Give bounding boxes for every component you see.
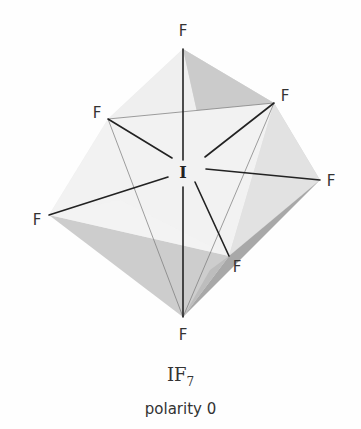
fluorine-label-lower-right: F [233, 258, 242, 276]
fluorine-label-upper-right: F [281, 87, 290, 105]
polarity-label: polarity 0 [0, 400, 361, 418]
fluorine-label-upper-left: F [93, 104, 102, 122]
fluorine-label-bottom: F [179, 326, 188, 344]
fluorine-label-right: F [327, 172, 336, 190]
molecular-formula: IF7 [0, 364, 361, 389]
formula-main: IF [167, 364, 187, 385]
formula-subscript: 7 [186, 375, 194, 389]
fluorine-label-left: F [33, 211, 42, 229]
central-atom-label: I [179, 163, 186, 182]
fluorine-label-top: F [179, 22, 188, 40]
polyhedron-faces [49, 49, 320, 317]
